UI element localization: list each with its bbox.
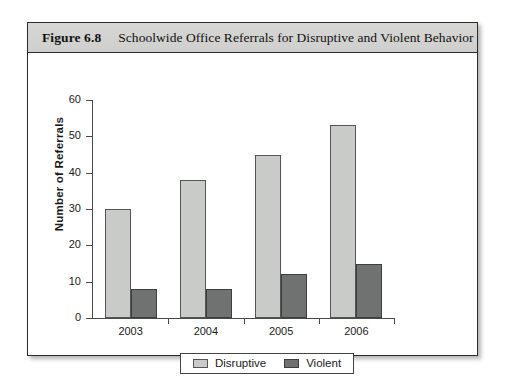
dark-gray-swatch-icon	[284, 359, 299, 368]
y-axis-title: Number of Referrals	[53, 109, 65, 239]
bar-violent-2005	[281, 274, 307, 318]
y-axis-tick: 30	[86, 209, 92, 210]
figure-number: Figure 6.8	[28, 30, 101, 46]
bar-disruptive-2004	[180, 180, 206, 318]
x-axis-label-2005: 2005	[251, 325, 311, 337]
bar-violent-2006	[356, 264, 382, 319]
chart-plot-area: Number of Referrals 0102030405060 200320…	[28, 53, 477, 355]
x-axis-label-2006: 2006	[326, 325, 386, 337]
bars-layer	[93, 100, 394, 318]
bar-disruptive-2003	[105, 209, 131, 318]
figure-caption: Schoolwide Office Referrals for Disrupti…	[101, 30, 473, 46]
x-axis-tick	[244, 318, 245, 324]
figure-container: Figure 6.8 Schoolwide Office Referrals f…	[27, 22, 478, 356]
y-axis-tick: 20	[86, 245, 92, 246]
y-axis-tick: 40	[86, 173, 92, 174]
legend-label-violent: Violent	[306, 357, 341, 369]
y-axis-tick: 10	[86, 282, 92, 283]
chart-legend: DisruptiveViolent	[180, 353, 354, 374]
y-axis-tick-label: 40	[69, 166, 86, 178]
x-axis-tick	[319, 318, 320, 324]
legend-item-disruptive[interactable]: Disruptive	[193, 357, 266, 369]
bar-disruptive-2005	[255, 155, 281, 319]
y-axis-tick-label: 30	[69, 202, 86, 214]
legend-label-disruptive: Disruptive	[215, 357, 266, 369]
light-gray-swatch-icon	[193, 359, 208, 368]
legend-item-violent[interactable]: Violent	[284, 357, 341, 369]
y-axis-tick: 50	[86, 136, 92, 137]
bar-disruptive-2006	[330, 125, 356, 318]
bar-violent-2003	[131, 289, 157, 318]
y-axis-tick-label: 60	[69, 93, 86, 105]
x-axis-tick	[168, 318, 169, 324]
figure-title-band: Figure 6.8 Schoolwide Office Referrals f…	[28, 23, 477, 53]
y-axis-tick: 0	[86, 318, 92, 319]
bar-violent-2004	[206, 289, 232, 318]
x-axis-label-2003: 2003	[101, 325, 161, 337]
y-axis-tick-label: 20	[69, 238, 86, 250]
x-axis-label-2004: 2004	[176, 325, 236, 337]
y-axis-tick-label: 50	[69, 129, 86, 141]
y-axis-tick-label: 10	[69, 275, 86, 287]
y-axis-tick-label: 0	[75, 311, 86, 323]
y-axis-tick: 60	[86, 100, 92, 101]
x-axis-tick	[394, 318, 395, 324]
